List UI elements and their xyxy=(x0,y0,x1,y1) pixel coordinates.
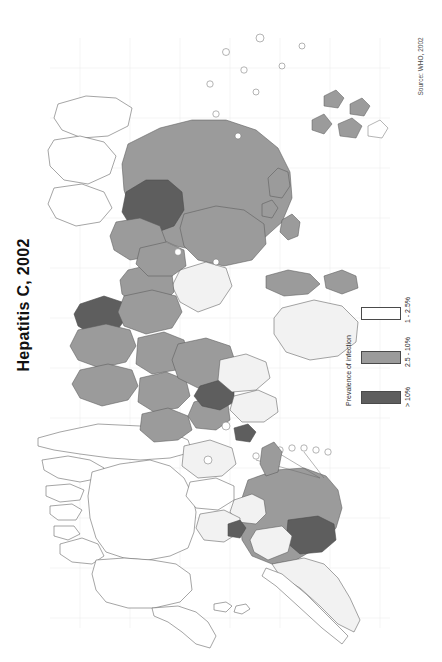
region-ethiopia xyxy=(218,354,270,392)
region-arctic-island-d xyxy=(54,526,80,540)
region-indian-island-b xyxy=(213,259,219,265)
region-island-speck-a xyxy=(253,453,259,459)
region-pacific-island-h xyxy=(213,111,219,117)
region-atlantic-island-b xyxy=(204,456,212,464)
region-ne-island-c xyxy=(338,118,362,138)
region-arctic-island-b xyxy=(46,484,84,502)
region-island-speck-f xyxy=(313,447,319,453)
region-libya xyxy=(118,290,182,334)
region-island-speck-d xyxy=(289,445,295,451)
region-europe-west xyxy=(48,136,116,184)
region-canada xyxy=(88,460,196,560)
legend-title: Prevalence of infection xyxy=(345,335,352,406)
legend: Prevalence of infection > 10% 2.5 - 10% … xyxy=(345,256,441,406)
region-nigeria xyxy=(140,408,192,442)
legend-swatch-high xyxy=(361,391,401,404)
region-kenya xyxy=(230,390,278,422)
region-ne-island-d xyxy=(368,120,388,138)
region-united-states xyxy=(92,558,192,608)
legend-label-low: 1 - 2.5% xyxy=(404,297,411,323)
region-pacific-island-a xyxy=(256,34,264,42)
legend-swatch-low xyxy=(361,307,401,320)
region-pacific-island-c xyxy=(223,49,230,56)
region-iraq-iran xyxy=(136,242,186,276)
region-mali xyxy=(72,364,138,406)
region-pacific-island-b xyxy=(299,43,305,49)
region-burundi xyxy=(234,424,256,442)
legend-item-high[interactable]: > 10% xyxy=(361,384,435,404)
region-pacific-island-e xyxy=(279,63,285,69)
legend-label-mid: 2.5 - 10% xyxy=(404,337,411,367)
region-caribbean-islands-b xyxy=(234,604,250,614)
region-pacific-island-g xyxy=(253,89,259,95)
legend-item-low[interactable]: 1 - 2.5% xyxy=(361,294,435,320)
region-island-speck-g xyxy=(325,449,331,455)
figure-page: Hepatitis C, 2002 Source: WHO, 2002 xyxy=(0,0,442,662)
region-indonesia xyxy=(266,270,320,296)
region-atlantic-island-a xyxy=(222,422,230,430)
region-island-speck-e xyxy=(301,445,307,451)
region-pacific-island-f xyxy=(207,81,213,87)
region-mexico xyxy=(152,606,216,648)
region-scandinavia xyxy=(54,96,132,138)
region-bolivia xyxy=(286,516,336,554)
legend-swatch-mid xyxy=(361,351,401,364)
region-pacific-island-d xyxy=(241,67,247,73)
legend-label-high: > 10% xyxy=(404,387,411,407)
region-europe-south xyxy=(48,184,112,226)
region-ne-island-e xyxy=(312,114,332,134)
region-pacific-island-i xyxy=(235,133,241,139)
region-caribbean-islands xyxy=(214,602,232,612)
region-arctic-island-c xyxy=(50,504,82,520)
region-ne-island-b xyxy=(350,98,370,116)
region-indian-island-a xyxy=(175,249,182,256)
region-ne-island-a xyxy=(324,90,344,108)
legend-item-mid[interactable]: 2.5 - 10% xyxy=(361,334,435,364)
